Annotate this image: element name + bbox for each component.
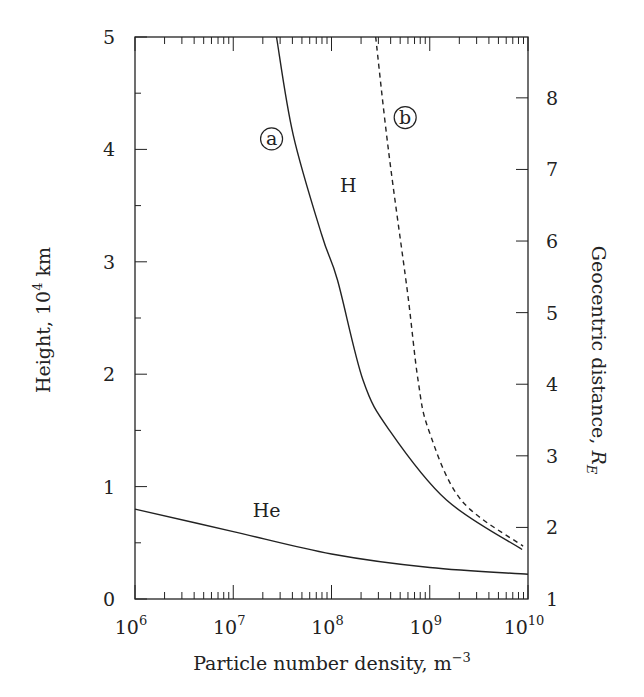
x-tick-label: 107 — [213, 613, 245, 638]
y2-tick-label: 7 — [546, 158, 558, 180]
annotation-he: He — [253, 499, 281, 521]
y2-axis-ticks: 12345678 — [516, 87, 558, 610]
plot-frame — [135, 37, 528, 599]
y2-tick-label: 4 — [546, 373, 558, 395]
x-tick-label: 106 — [115, 613, 147, 638]
y2-tick-label: 5 — [546, 302, 558, 324]
annotation-h: H — [340, 174, 357, 196]
annotations: abHHe — [253, 106, 416, 521]
chart: 1061071081091010 012345 12345678 abHHe P… — [0, 0, 644, 697]
y2-axis-label-sub: E — [584, 464, 599, 475]
plot-border — [135, 37, 528, 599]
x-axis-ticks: 1061071081091010 — [115, 37, 545, 638]
y2-tick-label: 8 — [546, 87, 558, 109]
y2-tick-label: 6 — [546, 230, 558, 252]
minor-ticks — [165, 37, 524, 599]
y-axis-label: Height, 104 km — [30, 247, 54, 393]
y-axis-ticks: 012345 — [103, 26, 147, 610]
y-axis-label-sup: 4 — [30, 283, 45, 291]
curves — [135, 37, 528, 574]
y2-axis-label-var: R — [588, 449, 610, 464]
y-tick-label: 2 — [103, 363, 115, 385]
y-tick-label: 0 — [103, 588, 115, 610]
y2-tick-label: 1 — [546, 588, 558, 610]
annotation-a: a — [266, 127, 277, 149]
curve-he — [135, 509, 528, 574]
y2-axis-label: Geocentric distance, RE — [584, 246, 610, 475]
y-tick-label: 5 — [103, 26, 115, 48]
annotation-b: b — [399, 106, 411, 128]
y-tick-label: 4 — [103, 138, 115, 160]
y2-tick-label: 3 — [546, 445, 558, 467]
y-tick-label: 1 — [103, 476, 115, 498]
x-axis-label: Particle number density, m−3 — [193, 650, 471, 674]
x-tick-label: 108 — [311, 613, 343, 638]
y-tick-label: 3 — [103, 251, 115, 273]
x-tick-label: 1010 — [504, 613, 545, 638]
x-axis-label-sup: −3 — [452, 650, 471, 665]
y2-tick-label: 2 — [546, 516, 558, 538]
x-tick-label: 109 — [410, 613, 442, 638]
curve-h-b — [376, 37, 523, 546]
